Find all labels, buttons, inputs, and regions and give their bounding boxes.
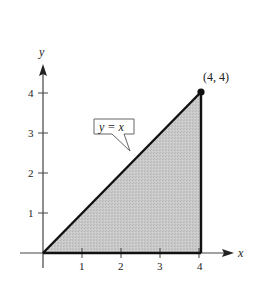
x-tick-label-2: 2 <box>118 260 124 272</box>
y-tick-label-4: 4 <box>28 87 34 99</box>
y-tick-label-1: 1 <box>28 207 34 219</box>
diagram: x y 1 2 3 4 1 2 3 4 (4, 4) y = x <box>0 0 259 285</box>
curve-label: y = x <box>98 120 124 134</box>
x-tick-label-1: 1 <box>79 260 85 272</box>
point-label: (4, 4) <box>203 70 229 84</box>
y-tick-label-2: 2 <box>28 167 34 179</box>
curve-label-callout: y = x <box>94 119 134 151</box>
point-4-4 <box>197 88 204 95</box>
x-tick-label-4: 4 <box>197 260 203 272</box>
y-axis-label: y <box>38 45 45 59</box>
x-axis-label: x <box>237 246 244 260</box>
y-tick-label-3: 3 <box>28 127 34 139</box>
x-tick-label-3: 3 <box>157 260 163 272</box>
